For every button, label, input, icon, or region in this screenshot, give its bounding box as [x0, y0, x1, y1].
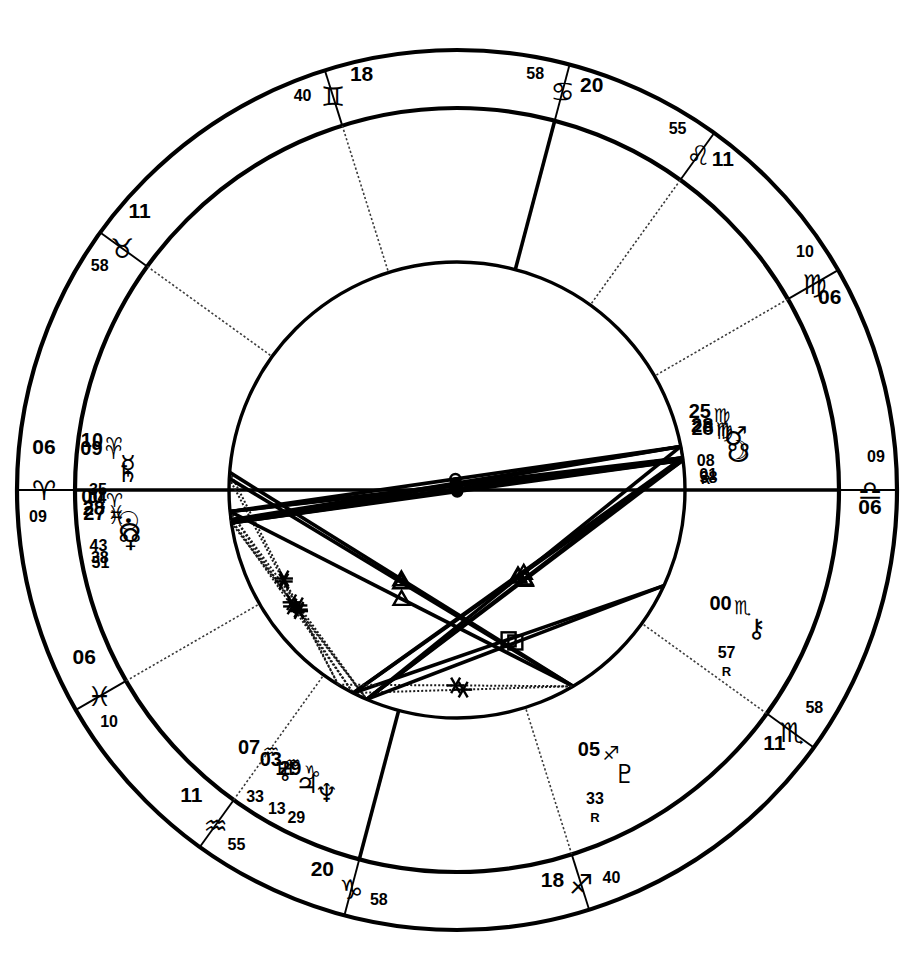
planet-sign-glyph: ♓	[108, 506, 125, 528]
cusp-label: 11♌55	[669, 120, 734, 170]
planet-degree: 27	[83, 502, 105, 524]
cusp-sign-glyph: ♒	[203, 810, 227, 841]
planet-sign-glyph: ♏	[734, 596, 751, 618]
planet-degree: 29	[279, 757, 301, 779]
cusp-minute: 09	[29, 508, 47, 525]
cusp-sign-glyph: ♐	[569, 869, 593, 900]
cusp-line-minor	[126, 604, 259, 681]
cusp-sign-glyph: ♌	[686, 140, 710, 171]
planet-retrograde: R	[722, 664, 732, 679]
planet-minute: 33	[246, 788, 264, 805]
cusp-sign-glyph: ♉	[110, 233, 134, 264]
planet-minute: 57	[718, 644, 736, 661]
cusp-degree: 18	[541, 868, 565, 891]
cusp-line-minor	[147, 266, 272, 356]
cusp-sign-glyph: ♈	[32, 475, 56, 506]
planet-sign-glyph: ♍	[716, 418, 733, 440]
cusp-sign-glyph: ♎	[858, 475, 882, 506]
cusp-line-minor	[590, 180, 680, 305]
natal-chart-wheel: 06♎0911♏5818♐4020♑5811♒5506♓1006♈0911♉58…	[0, 0, 914, 960]
cusp-degree: 06	[73, 645, 96, 668]
cusp-minute: 55	[669, 120, 687, 137]
cusp-line-major	[359, 710, 398, 859]
cusp-sign-glyph: ♊	[321, 81, 345, 112]
cusp-sign-glyph: ♓	[87, 681, 111, 712]
planet-minute: 51	[92, 554, 110, 571]
cusp-degree: 20	[311, 857, 334, 880]
planet-minute: 13	[268, 800, 286, 817]
planet-sign-glyph: ♒	[263, 740, 280, 762]
cusp-label: 18♐40	[541, 868, 621, 900]
planet-label: ♇05♐33R	[578, 738, 637, 825]
planet-degree: 09	[80, 437, 102, 459]
cusp-degree: 11	[712, 147, 735, 170]
cusp-sign-glyph: ♏	[780, 717, 804, 748]
cusp-minute: 58	[91, 257, 109, 274]
cusp-line-major	[515, 121, 554, 270]
cusp-sign-glyph: ♋	[551, 76, 575, 107]
planet-minute: 01	[699, 466, 717, 483]
planet-sign-glyph: ♐	[602, 742, 619, 764]
cusp-minute: 40	[294, 87, 312, 104]
planet-degree: 00	[709, 592, 731, 614]
cusp-minute: 40	[603, 869, 621, 886]
planet-sign-glyph: ♈	[105, 441, 122, 463]
cusp-minute: 10	[100, 713, 118, 730]
cusp-degree: 18	[350, 62, 374, 85]
cusp-minute: 09	[867, 448, 885, 465]
planet-label: ⚷00♏57R	[709, 592, 766, 679]
cusp-sign-glyph: ♑	[339, 874, 363, 905]
cusp-degree: 06	[32, 435, 55, 458]
cusp-minute: 10	[796, 243, 814, 260]
planet-degree: 05	[578, 738, 600, 760]
planet-degree: 28	[691, 414, 713, 436]
cusp-line-minor	[525, 707, 571, 854]
planet-sign-glyph: ♑	[304, 761, 321, 783]
planet-minute: 33	[586, 790, 604, 807]
cusp-label: 06♎09	[858, 448, 885, 518]
cusp-degree: 11	[129, 199, 152, 222]
aspect-line-conj	[338, 685, 353, 693]
cusp-minute: 55	[228, 836, 246, 853]
cusp-degree: 11	[180, 783, 203, 806]
cusp-degree: 20	[580, 73, 603, 96]
cusp-line-minor	[654, 299, 787, 376]
cusp-label: 06♈09	[29, 435, 56, 525]
planet-minute: 29	[287, 809, 305, 826]
chart-svg: 06♎0911♏5818♐4020♑5811♒5506♓1006♈0911♉58…	[0, 0, 914, 960]
cusp-sign-glyph: ♍	[803, 269, 827, 300]
cusp-label: 06♍10	[796, 243, 841, 308]
cusp-line-minor	[342, 126, 388, 273]
cusp-minute: 58	[526, 65, 544, 82]
planet-degree: 07	[238, 736, 260, 758]
cusp-minute: 58	[370, 891, 388, 908]
cusp-minute: 58	[805, 699, 823, 716]
planet-retrograde: R	[590, 810, 600, 825]
